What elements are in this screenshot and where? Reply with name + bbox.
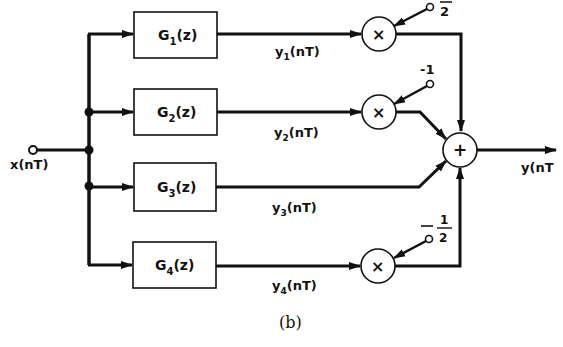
gain-node-4 [426, 236, 433, 243]
distribution-bus [85, 34, 94, 265]
signal-label-y4: y4(nT) [272, 278, 317, 296]
gain-node-2 [427, 81, 434, 88]
svg-text:+: + [453, 140, 467, 160]
svg-text:×: × [371, 257, 384, 276]
svg-text:×: × [372, 103, 385, 122]
summing-junction: + [443, 133, 477, 167]
gain-node-1 [427, 4, 434, 11]
block-diagram: x(nT) G1(z) y1(nT) × 2 G2(z) y2(nT) × [0, 0, 563, 347]
branch-2: G2(z) y2(nT) × -1 [88, 62, 446, 143]
svg-text:×: × [372, 25, 385, 44]
branch-3: G3(z) y3(nT) [88, 161, 446, 218]
gain-label-1: 2 [440, 4, 449, 19]
svg-text:1: 1 [440, 213, 448, 227]
signal-label-y2: y2(nT) [274, 125, 319, 143]
gain-label-2: -1 [420, 62, 434, 77]
output-label: y(nT [521, 160, 554, 175]
figure-caption: (b) [279, 313, 302, 332]
input-label: x(nT) [10, 157, 48, 172]
signal-label-y3: y3(nT) [272, 200, 317, 218]
output-node: y(nT [477, 150, 556, 175]
input-node: x(nT) [10, 146, 89, 172]
junction-dot [85, 146, 94, 155]
svg-text:2: 2 [439, 231, 447, 245]
signal-label-y1: y1(nT) [275, 44, 320, 62]
